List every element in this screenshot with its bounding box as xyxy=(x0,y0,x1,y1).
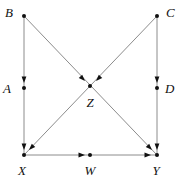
vertex-label-A: A xyxy=(2,81,11,96)
vertex-dot-X xyxy=(22,153,26,157)
vertex-label-W: W xyxy=(85,163,97,178)
vertex-dot-C xyxy=(155,14,159,18)
arrow-into-W-icon xyxy=(79,153,86,158)
vertex-dot-B xyxy=(22,14,26,18)
arrow-into-A-icon xyxy=(22,77,27,84)
vertex-dot-W xyxy=(88,153,92,157)
arrow-into-Z-from-C-icon xyxy=(94,75,102,83)
arrow-into-Y-horizontal-icon xyxy=(145,153,152,158)
vertex-dot-D xyxy=(155,86,159,90)
vertex-label-Y: Y xyxy=(152,163,161,178)
vertex-label-D: D xyxy=(164,81,175,96)
arrow-into-D-icon xyxy=(155,77,160,84)
vertex-dot-Y xyxy=(155,153,159,157)
diagram-canvas: BCADZXWY xyxy=(0,0,184,183)
vertex-label-X: X xyxy=(17,163,27,178)
geometry-diagram: BCADZXWY xyxy=(0,0,184,183)
vertex-label-C: C xyxy=(166,5,175,20)
vertex-label-layer: BCADZXWY xyxy=(2,5,175,178)
arrow-into-Y-vertical-icon xyxy=(155,144,160,151)
arrow-into-X-vertical-icon xyxy=(22,144,27,151)
vertex-dot-A xyxy=(22,86,26,90)
vertex-label-B: B xyxy=(5,5,13,20)
vertex-label-Z: Z xyxy=(86,95,94,110)
arrow-into-Z-from-B-icon xyxy=(79,75,87,83)
vertex-dot-Z xyxy=(88,84,92,88)
